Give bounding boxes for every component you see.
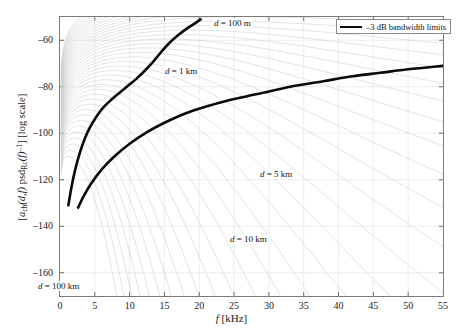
label-d-100km: d = 100 km [36,281,81,291]
x-axis-unit: [kHz] [222,312,248,324]
x-axis-title: f [kHz] [0,312,463,324]
x-tick-label: 25 [219,300,249,311]
label-d-10km: d = 10 km [228,234,269,244]
faint-curve-family [61,17,443,296]
label-d-100m: d = 100 m [212,18,253,28]
distance-symbol: d [214,18,219,28]
plot-canvas [60,17,443,296]
y-title-psd: psd [16,170,27,185]
x-tick-label: 35 [289,300,319,311]
distance-symbol: d [165,66,170,76]
y-title-close: ] [log scale] [16,94,27,144]
x-tick-label: 0 [45,300,75,311]
y-title-open: [ [16,217,27,221]
distance-symbol: d [230,234,235,244]
label-d-1km: d = 1 km [163,66,199,76]
x-tick-label: 20 [184,300,214,311]
bandwidth-limit-curve-1 [78,66,443,208]
distance-symbol: d [38,281,43,291]
x-tick-label: 50 [393,300,423,311]
x-tick-label: 30 [254,300,284,311]
x-tick-label: 40 [324,300,354,311]
y-axis-title: [ach(d,f) psdRc(f)–1] [log scale] [15,17,29,297]
y-title-exp: –1 [15,144,24,152]
legend-box: –3 dB bandwidth limits [336,19,451,34]
x-tick-label: 5 [80,300,110,311]
plot-area [59,16,444,297]
y-title-a: a [16,212,27,217]
x-tick-label: 15 [149,300,179,311]
y-title-f: (f) [16,151,27,161]
x-tick-label: 10 [115,300,145,311]
x-axis-symbol: f [216,312,219,324]
distance-symbol: d [260,169,265,179]
legend-line-swatch [340,26,362,28]
y-title-args: (d,f) [16,187,27,205]
y-title-a-sub: ch [20,205,29,212]
x-tick-label: 55 [428,300,458,311]
figure-container: –60–80–100–120–140–160 05101520253035404… [0,0,463,335]
label-d-5km: d = 5 km [258,169,294,179]
legend-label: –3 dB bandwidth limits [366,22,446,32]
x-tick-label: 45 [358,300,388,311]
y-title-psd-sub: Rc [20,161,29,169]
